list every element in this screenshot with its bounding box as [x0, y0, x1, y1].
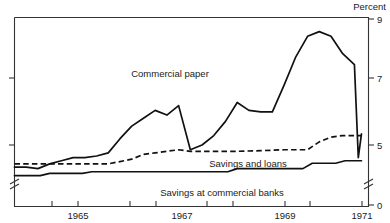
- x-tick-label-1971: 1971: [351, 210, 372, 221]
- interest-rate-line-chart: Percent 9 7 5 0 1965 1967 1969 1971 Comm…: [0, 0, 390, 223]
- y-tick-label-9: 9: [377, 14, 382, 25]
- y-tick-label-5: 5: [377, 140, 382, 151]
- series-line-savings-at-commercial-banks: [15, 161, 362, 176]
- y-axis-ticks-left: [9, 78, 15, 145]
- y-tick-label-0: 0: [377, 200, 382, 211]
- chart-container: Percent 9 7 5 0 1965 1967 1969 1971 Comm…: [0, 0, 390, 223]
- series-label-savings-and-loans: Savings and loans: [209, 158, 287, 169]
- x-tick-label-1967: 1967: [171, 210, 192, 221]
- y-axis-title: Percent: [353, 1, 386, 12]
- y-axis-ticks-right: [369, 19, 375, 205]
- series-label-savings-at-commercial-banks: Savings at commercial banks: [160, 187, 284, 198]
- x-axis-ticks: [52, 201, 362, 207]
- series-label-commercial-paper: Commercial paper: [131, 68, 209, 79]
- plot-frame: [15, 18, 369, 207]
- x-tick-label-1969: 1969: [274, 210, 295, 221]
- y-tick-label-7: 7: [377, 73, 382, 84]
- x-tick-label-1965: 1965: [67, 210, 88, 221]
